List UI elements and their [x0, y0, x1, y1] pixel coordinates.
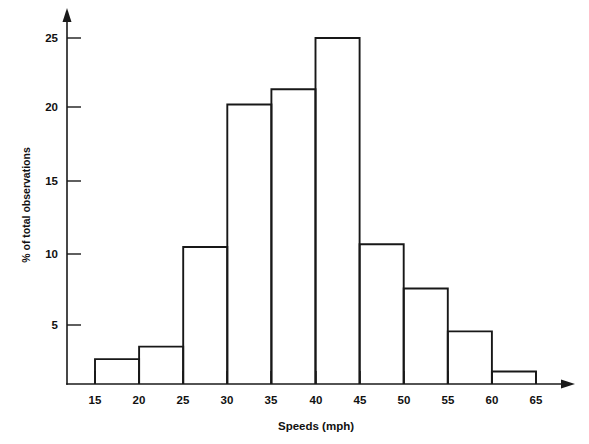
histogram-chart: 5 10 15 20 25 15 20 25 30 35 40 — [0, 0, 589, 444]
histogram-bar — [139, 347, 183, 384]
y-tick-label-15: 15 — [45, 175, 58, 187]
x-axis-title: Speeds (mph) — [278, 420, 354, 432]
x-tick-label-25: 25 — [177, 394, 190, 406]
histogram-bar — [316, 38, 360, 384]
y-axis-ticks — [67, 38, 81, 325]
histogram-bar — [404, 289, 448, 384]
x-axis-right-arrow-icon — [561, 380, 575, 389]
y-axis-up-arrow-icon — [63, 8, 72, 22]
histogram-bar — [183, 247, 227, 384]
chart-canvas: 5 10 15 20 25 15 20 25 30 35 40 — [0, 0, 589, 444]
histogram-bar — [448, 331, 492, 384]
x-tick-label-50: 50 — [398, 394, 411, 406]
x-tick-label-20: 20 — [133, 394, 146, 406]
histogram-bar — [271, 89, 315, 384]
x-tick-label-45: 45 — [354, 394, 367, 406]
histogram-bar — [360, 244, 404, 384]
y-tick-label-10: 10 — [45, 248, 58, 260]
x-tick-label-60: 60 — [486, 394, 499, 406]
x-tick-label-30: 30 — [221, 394, 234, 406]
x-axis-tick-labels: 15 20 25 30 35 40 45 50 55 60 65 — [89, 394, 543, 406]
histogram-bar — [492, 372, 536, 384]
histogram-bars — [95, 38, 536, 384]
y-tick-label-5: 5 — [52, 319, 59, 331]
x-tick-label-40: 40 — [310, 394, 323, 406]
x-tick-label-65: 65 — [530, 394, 543, 406]
y-tick-label-20: 20 — [45, 101, 58, 113]
x-tick-label-15: 15 — [89, 394, 102, 406]
y-axis-tick-labels: 5 10 15 20 25 — [45, 32, 58, 331]
histogram-bar — [227, 104, 271, 384]
x-tick-label-35: 35 — [265, 394, 278, 406]
y-tick-label-25: 25 — [45, 32, 58, 44]
histogram-bar — [95, 359, 139, 384]
y-axis-title: % of total observations — [20, 147, 32, 263]
x-tick-label-55: 55 — [442, 394, 455, 406]
